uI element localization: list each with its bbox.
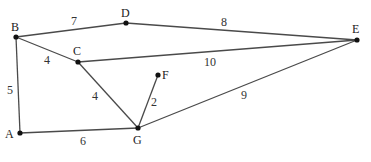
graph-nodes <box>13 20 359 135</box>
node-label-D: D <box>121 6 130 20</box>
node-label-F: F <box>162 68 169 82</box>
edge-B-A <box>16 37 20 133</box>
node-label-B: B <box>11 20 19 34</box>
node-F <box>155 72 160 77</box>
edge-weight-B-D: 7 <box>71 14 77 28</box>
weighted-graph-diagram: 7841054296 ABCDEFG <box>0 0 371 162</box>
node-D <box>123 20 128 25</box>
node-label-E: E <box>352 22 359 36</box>
edge-weight-B-A: 5 <box>7 83 13 97</box>
edge-C-G <box>78 62 138 128</box>
node-C <box>75 59 80 64</box>
edge-weight-B-C: 4 <box>44 53 50 67</box>
edge-weight-D-E: 8 <box>221 15 227 29</box>
node-label-G: G <box>133 133 142 147</box>
edge-C-E <box>78 40 357 62</box>
edge-weight-C-E: 10 <box>204 55 216 69</box>
node-G <box>135 125 140 130</box>
edge-weight-F-G: 2 <box>151 95 157 109</box>
edge-weight-C-G: 4 <box>92 89 98 103</box>
node-A <box>17 130 22 135</box>
edge-D-E <box>126 23 357 40</box>
edge-G-E <box>138 40 357 128</box>
edge-weight-A-G: 6 <box>80 134 86 148</box>
edge-weight-G-E: 9 <box>241 88 247 102</box>
node-B <box>13 34 18 39</box>
edge-A-G <box>20 128 138 133</box>
node-label-A: A <box>5 127 14 141</box>
graph-edges <box>16 23 357 133</box>
node-label-C: C <box>73 44 81 58</box>
node-E <box>354 37 359 42</box>
